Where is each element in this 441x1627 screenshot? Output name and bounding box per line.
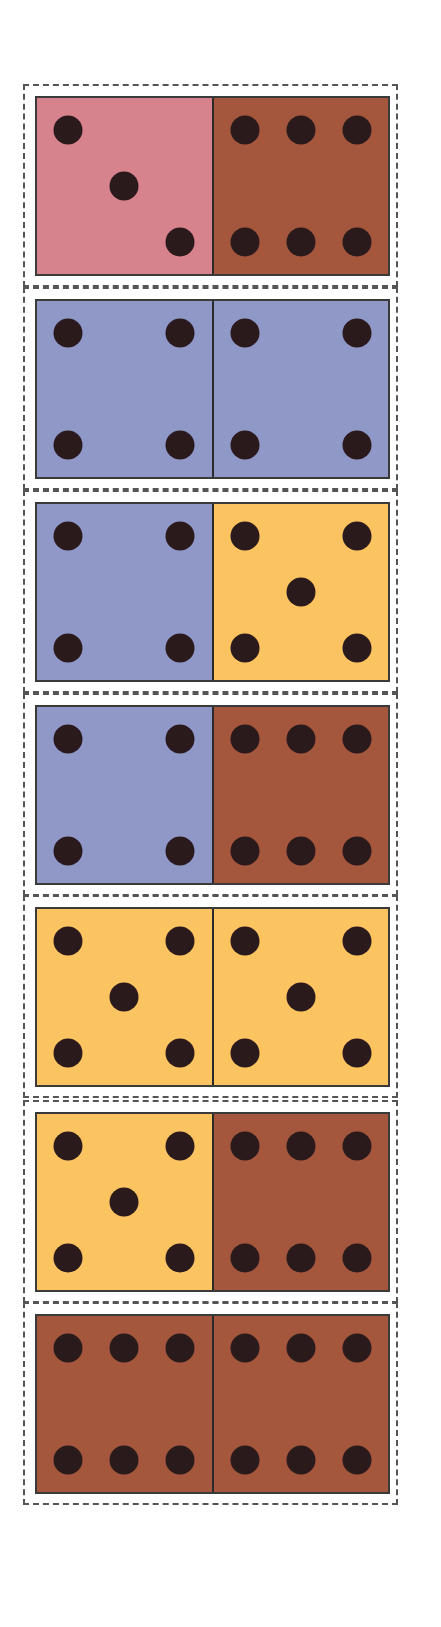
pip-dot (110, 1188, 139, 1217)
pip-dot (54, 1244, 83, 1273)
pip-dot (166, 1446, 195, 1475)
domino-tile (35, 96, 390, 276)
domino-tile (35, 705, 390, 885)
pip-dot (230, 1333, 259, 1362)
domino-half-left (37, 707, 212, 883)
pip-dot (54, 1333, 83, 1362)
pip-dot (230, 431, 259, 460)
pip-dot (166, 1039, 195, 1068)
pip-dot (110, 1446, 139, 1475)
pip-dot (54, 115, 83, 144)
domino-tile (35, 907, 390, 1087)
pip-dot (342, 634, 371, 663)
domino-tile (35, 299, 390, 479)
pip-dot (166, 228, 195, 257)
domino-half-right (212, 98, 389, 274)
pip-dot (342, 431, 371, 460)
pip-dot (166, 318, 195, 347)
pip-dot (230, 521, 259, 550)
pip-dot (230, 1244, 259, 1273)
pip-dot (286, 115, 315, 144)
pip-dot (230, 318, 259, 347)
domino-half-left (37, 909, 212, 1085)
pip-dot (166, 724, 195, 753)
domino-half-left (37, 301, 212, 477)
pip-dot (54, 521, 83, 550)
pip-dot (110, 1333, 139, 1362)
domino-tile (35, 502, 390, 682)
pip-dot (286, 724, 315, 753)
pip-dot (342, 1244, 371, 1273)
pip-dot (54, 431, 83, 460)
domino-tile (35, 1112, 390, 1292)
pip-dot (54, 634, 83, 663)
domino-card (23, 1302, 398, 1505)
pip-dot (166, 634, 195, 663)
domino-half-left (37, 98, 212, 274)
pip-dot (230, 724, 259, 753)
pip-dot (166, 521, 195, 550)
pip-dot (230, 1446, 259, 1475)
pip-dot (342, 1446, 371, 1475)
domino-half-right (212, 909, 389, 1085)
pip-dot (286, 578, 315, 607)
pip-dot (230, 1131, 259, 1160)
pip-dot (54, 1039, 83, 1068)
pip-dot (166, 837, 195, 866)
domino-half-right (212, 301, 389, 477)
pip-dot (286, 1446, 315, 1475)
pip-dot (342, 1039, 371, 1068)
pip-dot (230, 115, 259, 144)
pip-dot (342, 1333, 371, 1362)
pip-dot (54, 318, 83, 347)
pip-dot (166, 1131, 195, 1160)
pip-dot (286, 1333, 315, 1362)
domino-card (23, 84, 398, 287)
domino-card (23, 693, 398, 896)
pip-dot (110, 172, 139, 201)
domino-tile (35, 1314, 390, 1494)
pip-dot (342, 521, 371, 550)
pip-dot (342, 724, 371, 753)
pip-dot (166, 926, 195, 955)
pip-dot (342, 926, 371, 955)
domino-half-right (212, 1114, 389, 1290)
pip-dot (166, 1333, 195, 1362)
pip-dot (286, 1131, 315, 1160)
domino-half-right (212, 1316, 389, 1492)
domino-half-right (212, 707, 389, 883)
pip-dot (230, 837, 259, 866)
pip-dot (230, 228, 259, 257)
pip-dot (286, 837, 315, 866)
pip-dot (54, 724, 83, 753)
pip-dot (342, 1131, 371, 1160)
pip-dot (110, 983, 139, 1012)
domino-half-left (37, 1316, 212, 1492)
pip-dot (342, 115, 371, 144)
pip-dot (54, 837, 83, 866)
domino-card (23, 490, 398, 693)
domino-card (23, 895, 398, 1098)
pip-dot (230, 1039, 259, 1068)
domino-card (23, 1100, 398, 1303)
domino-half-left (37, 1114, 212, 1290)
pip-dot (230, 634, 259, 663)
pip-dot (166, 431, 195, 460)
pip-dot (342, 837, 371, 866)
pip-dot (286, 983, 315, 1012)
pip-dot (286, 1244, 315, 1273)
pip-dot (286, 228, 315, 257)
domino-card (23, 287, 398, 490)
pip-dot (166, 1244, 195, 1273)
domino-half-right (212, 504, 389, 680)
pip-dot (342, 318, 371, 347)
domino-half-left (37, 504, 212, 680)
pip-dot (54, 1131, 83, 1160)
pip-dot (54, 1446, 83, 1475)
pip-dot (230, 926, 259, 955)
pip-dot (342, 228, 371, 257)
pip-dot (54, 926, 83, 955)
